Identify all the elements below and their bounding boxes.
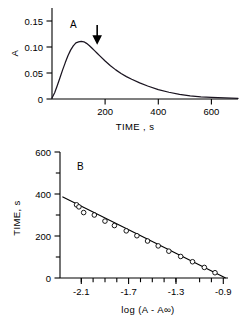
panel-b-xticklabel-n09: -0.9 (215, 286, 231, 297)
panel-b-point-6 (124, 229, 129, 234)
panel-a-label: A (70, 19, 77, 30)
panel-b-yticklabel-600: 600 (35, 147, 51, 158)
figure-container: 0 0.05 0.10 0.15 200 400 600 TIME , s A … (0, 0, 244, 328)
panel-b-point-9 (156, 244, 161, 249)
panel-b-point-2 (81, 210, 86, 215)
panel-a-xaxis-title: TIME , s (116, 121, 155, 132)
panel-a: 0 0.05 0.10 0.15 200 400 600 TIME , s A … (0, 0, 244, 150)
panel-a-yaxis-title: A (9, 49, 20, 56)
panel-b-point-1 (77, 205, 82, 210)
panel-a-xticklabel-600: 600 (203, 106, 219, 117)
panel-b-point-8 (145, 239, 150, 244)
panel-b-yticklabel-0: 0 (46, 273, 51, 284)
panel-b-xticklabel-n13: -1.3 (168, 286, 184, 297)
panel-b-point-10 (167, 249, 172, 254)
panel-a-absorbance-curve (52, 41, 238, 98)
panel-b-yticklabel-200: 200 (35, 231, 51, 242)
panel-b-point-4 (103, 219, 108, 224)
panel-a-arrow-icon (94, 25, 101, 43)
panel-b-point-13 (202, 265, 207, 270)
panel-b-point-5 (112, 223, 117, 228)
panel-a-xticklabel-400: 400 (150, 106, 166, 117)
panel-b-xticklabel-n21: -2.1 (73, 286, 89, 297)
panel-b-point-7 (135, 233, 140, 238)
panel-b-fit-line (62, 197, 225, 278)
panel-a-yticklabel-015: 0.15 (25, 16, 44, 27)
panel-b-plot: 0 200 400 600 -2.1 -1.7 (0, 140, 244, 328)
panel-b-yticklabel-400: 400 (35, 189, 51, 200)
panel-b-label: B (77, 161, 84, 172)
panel-b-xticks-minor (81, 278, 211, 282)
panel-a-yticklabel-0: 0 (38, 94, 43, 105)
panel-a-xticklabel-200: 200 (97, 106, 113, 117)
panel-a-yticklabel-005: 0.05 (25, 68, 44, 79)
panel-b-yaxis-title: TIME, s (11, 200, 22, 236)
panel-a-yticklabel-010: 0.10 (25, 42, 44, 53)
panel-a-plot: 0 0.05 0.10 0.15 200 400 600 TIME , s A … (0, 0, 244, 150)
panel-b-xaxis-title: log (A - A∞) (121, 304, 174, 315)
panel-b-point-14 (213, 270, 218, 275)
panel-b: 0 200 400 600 -2.1 -1.7 (0, 140, 244, 328)
panel-b-xticklabel-n17: -1.7 (120, 286, 136, 297)
panel-b-point-11 (178, 254, 183, 259)
panel-b-point-3 (92, 213, 97, 218)
panel-b-point-12 (190, 259, 195, 264)
